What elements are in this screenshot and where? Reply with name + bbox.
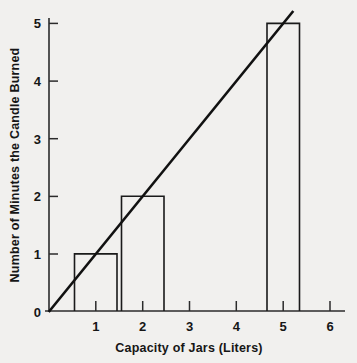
- y-axis-title: Number of Minutes the Candle Burned: [8, 48, 22, 283]
- x-tick-label-3: 3: [186, 319, 193, 334]
- x-tick-label-2: 2: [139, 319, 146, 334]
- x-tick-label-1: 1: [92, 319, 99, 334]
- y-tick-label-1: 1: [34, 247, 41, 262]
- chart-background: [0, 0, 357, 363]
- x-tick-label-6: 6: [326, 319, 333, 334]
- x-tick-label-5: 5: [280, 319, 287, 334]
- x-axis-title: Capacity of Jars (Liters): [115, 341, 262, 355]
- bar-chart-with-trend-line: 5 4 3 2 1 0 Number of Minutes the Candle…: [0, 0, 357, 363]
- y-tick-label-3: 3: [34, 132, 41, 147]
- y-tick-label-5: 5: [34, 16, 41, 31]
- y-tick-label-2: 2: [34, 189, 41, 204]
- y-tick-label-4: 4: [34, 74, 42, 89]
- chart-container: 5 4 3 2 1 0 Number of Minutes the Candle…: [0, 0, 357, 363]
- x-tick-label-4: 4: [233, 319, 241, 334]
- y-tick-label-0: 0: [34, 305, 41, 320]
